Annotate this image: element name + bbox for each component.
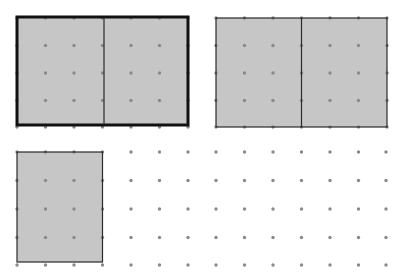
grid-dot [129,44,132,47]
grid-dot [44,207,47,210]
grid-dot [129,179,132,182]
rectangle-a-fill [17,17,188,125]
grid-dot [186,263,189,266]
grid-dot [72,71,75,74]
grid-dot [15,263,18,266]
grid-dot [243,44,246,47]
grid-dot [384,236,387,239]
grid-dot [328,179,331,182]
grid-dot [243,99,246,102]
grid-dot [271,99,274,102]
grid-dot [72,179,75,182]
grid-dot [357,207,360,210]
grid-dot [328,99,331,102]
grid-dot [72,99,75,102]
grid-dot [300,150,303,153]
grid-dot [214,236,217,239]
grid-dot [72,44,75,47]
grid-dot [44,263,47,266]
grid-dot [384,150,387,153]
grid-dot [44,44,47,47]
grid-dot [214,150,217,153]
grid-dot [129,150,132,153]
grid-dot [300,263,303,266]
grid-dot [129,207,132,210]
grid-dot [214,179,217,182]
grid-dot [328,150,331,153]
grid-dot [158,71,161,74]
grid-dot [158,99,161,102]
grid-dot [271,263,274,266]
grid-dot [357,179,360,182]
grid-dot [158,150,161,153]
grid-dot [72,207,75,210]
grid-dot [243,71,246,74]
grid-dot [72,236,75,239]
grid-dot [271,207,274,210]
grid-dot [357,71,360,74]
grid-dot [271,71,274,74]
grid-dot [357,44,360,47]
grid-dot [300,236,303,239]
grid-dot [357,236,360,239]
grid-dot [328,236,331,239]
grid-dot [328,44,331,47]
grid-dot [158,236,161,239]
grid-dot [44,179,47,182]
shapes-layer [17,17,387,262]
grid-dot [158,207,161,210]
rectangle-c-fill [17,152,103,262]
grid-dot [129,71,132,74]
dot-grid-diagram [0,0,402,276]
grid-dot [158,179,161,182]
grid-dot [243,236,246,239]
grid-dot [101,263,104,266]
grid-dot [186,207,189,210]
grid-dot [357,263,360,266]
grid-dot [158,44,161,47]
grid-dot [214,263,217,266]
grid-dot [243,207,246,210]
grid-dot [186,150,189,153]
grid-dot [300,179,303,182]
grid-dot [384,263,387,266]
grid-dot [72,263,75,266]
grid-dot [271,236,274,239]
grid-dot [328,71,331,74]
grid-dot [300,207,303,210]
grid-dot [384,207,387,210]
grid-dot [243,263,246,266]
grid-dot [44,71,47,74]
grid-dot [44,236,47,239]
grid-dot [271,179,274,182]
grid-dot [129,99,132,102]
grid-dot [186,179,189,182]
grid-dot [158,263,161,266]
grid-dot [328,207,331,210]
grid-dot [214,207,217,210]
grid-dot [129,236,132,239]
grid-dot [384,179,387,182]
grid-dot [44,99,47,102]
grid-dot [243,179,246,182]
grid-dot [357,99,360,102]
grid-dot [243,150,246,153]
grid-dot [271,44,274,47]
grid-dot [328,263,331,266]
grid-dot [186,236,189,239]
grid-dot [357,150,360,153]
grid-dot [129,263,132,266]
grid-dot [271,150,274,153]
